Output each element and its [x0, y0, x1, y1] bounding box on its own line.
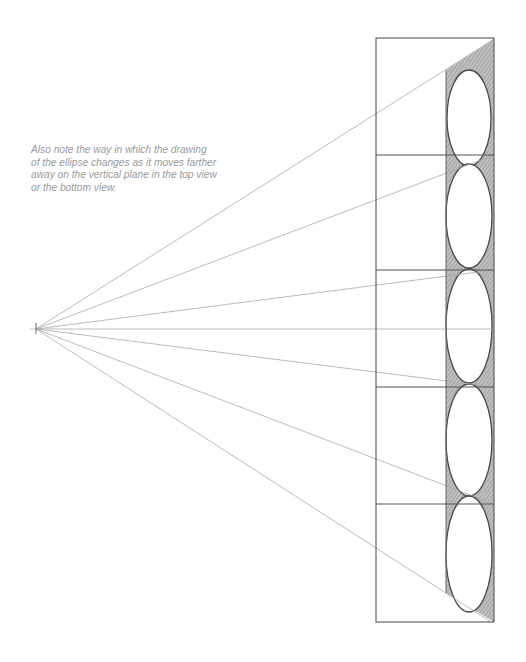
caption-text: Also note the way in which the drawing o…: [31, 144, 261, 194]
ellipse-1: [447, 70, 491, 166]
perspective-drawing: [0, 0, 526, 662]
ellipse-2: [446, 164, 492, 268]
ray-3: [36, 329, 494, 387]
caption-line-4: or the bottom view.: [31, 182, 261, 195]
ray-4: [36, 329, 494, 504]
ellipse-5: [446, 496, 492, 612]
ray-bottom: [36, 329, 491, 622]
ray-2: [36, 270, 494, 329]
ellipse-3: [446, 269, 492, 383]
caption-line-1: Also note the way in which the drawing: [31, 144, 261, 157]
ellipses: [446, 70, 492, 612]
caption-line-3: away on the vertical plane in the top vi…: [31, 169, 261, 182]
ellipse-4: [446, 384, 492, 496]
perspective-rays: [30, 39, 494, 622]
caption-line-2: of the ellipse changes as it moves farth…: [31, 157, 261, 170]
